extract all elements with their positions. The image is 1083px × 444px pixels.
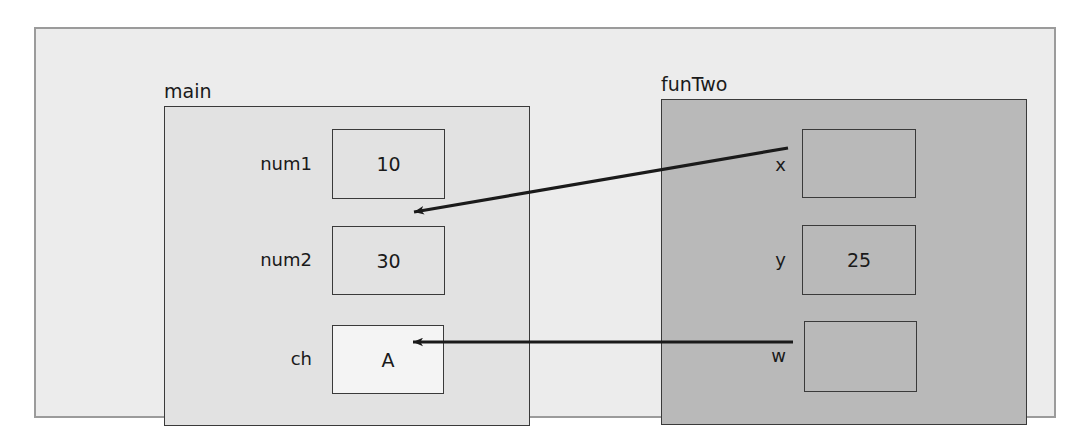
variable-label-num2: num2 bbox=[232, 251, 312, 269]
diagram-canvas: main num1 10 num2 30 ch A funTwo x y 25 … bbox=[0, 0, 1083, 444]
variable-value-num2: 30 bbox=[332, 226, 445, 295]
stack-frame-main-label: main bbox=[164, 82, 211, 101]
variable-value-x bbox=[802, 129, 916, 198]
variable-value-w bbox=[804, 321, 917, 392]
variable-label-x: x bbox=[736, 156, 786, 174]
variable-label-num1: num1 bbox=[232, 155, 312, 173]
variable-label-ch: ch bbox=[232, 350, 312, 368]
variable-value-ch: A bbox=[332, 325, 444, 394]
variable-value-y: 25 bbox=[802, 225, 916, 295]
stack-frame-funtwo-label: funTwo bbox=[661, 75, 727, 94]
variable-label-y: y bbox=[736, 251, 786, 269]
variable-label-w: w bbox=[736, 347, 786, 365]
outer-slide-frame: main num1 10 num2 30 ch A funTwo x y 25 … bbox=[34, 27, 1056, 418]
variable-value-num1: 10 bbox=[332, 129, 445, 199]
